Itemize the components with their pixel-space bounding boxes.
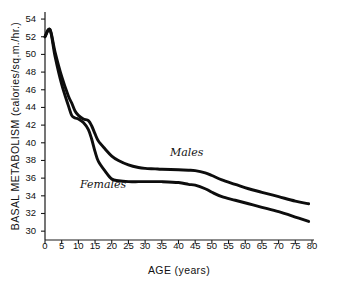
x-axis-tick-labels: 05101520253035404550556065707580 bbox=[0, 241, 344, 255]
series-label-males: Males bbox=[170, 146, 204, 159]
chart-figure: BASAL METABOLISM (calories/sq.m./hr.) 30… bbox=[0, 0, 344, 285]
x-axis-title: AGE (years) bbox=[45, 264, 313, 276]
x-tick-label: 80 bbox=[302, 241, 322, 251]
series-label-females: Females bbox=[80, 178, 126, 191]
data-series-group bbox=[45, 29, 309, 221]
series-curve-females bbox=[45, 29, 309, 221]
